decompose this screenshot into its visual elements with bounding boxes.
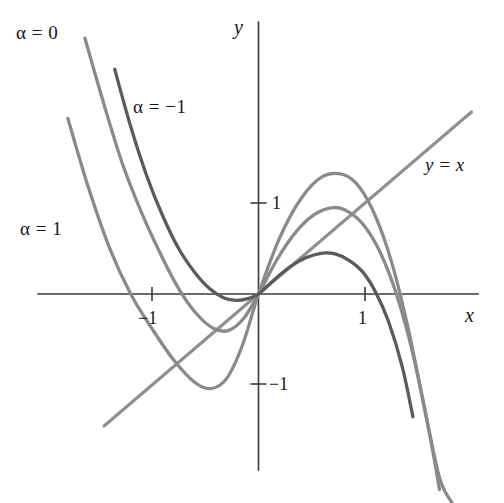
axes-group: [38, 22, 478, 470]
y-axis-name: y: [234, 17, 243, 37]
curve-label-alpha-1: α = 1: [20, 219, 62, 238]
curves-group: [68, 38, 472, 503]
x-tick-label-positive-one: 1: [358, 309, 367, 327]
plot-canvas: [0, 0, 504, 503]
curve--1: [115, 69, 413, 417]
curve-label-alpha-minus-1: α = −1: [133, 97, 186, 116]
y-tick-label-positive-one: 1: [272, 194, 281, 212]
x-tick-label-negative-one: −1: [138, 309, 157, 327]
curve-label-alpha-0: α = 0: [16, 23, 58, 42]
curve-family-figure: α = 0 α = −1 α = 1 y x y = x −1 1 1 −1: [0, 0, 504, 503]
identity-line-label: y = x: [425, 155, 464, 174]
x-axis-name: x: [465, 305, 474, 325]
y-tick-label-negative-one: −1: [269, 375, 288, 393]
